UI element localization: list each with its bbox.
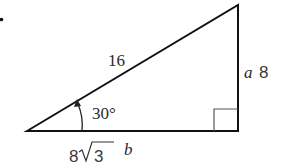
side-b-value-radicand: 3 bbox=[94, 147, 103, 165]
side-b-value-coefficient: 8 bbox=[69, 147, 78, 165]
side-b-variable: b bbox=[124, 140, 133, 159]
right-triangle-diagram: 16 a 8 30° 8 3 b bbox=[0, 0, 282, 165]
side-a-value: 8 bbox=[259, 63, 268, 82]
right-angle-marker bbox=[214, 109, 238, 131]
angle-label: 30° bbox=[92, 104, 116, 123]
bullet-dot bbox=[0, 18, 3, 22]
side-a-variable: a bbox=[244, 63, 253, 82]
triangle-outline bbox=[27, 5, 238, 131]
hypotenuse-label: 16 bbox=[108, 51, 125, 70]
angle-arc bbox=[78, 104, 82, 131]
